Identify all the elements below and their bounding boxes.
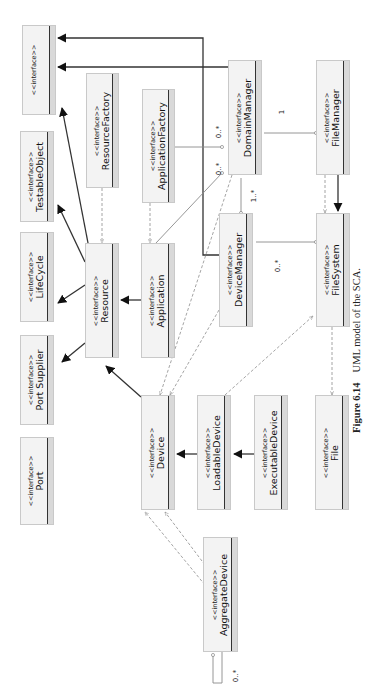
interface-box-port-supplier: <<interface>>Port Supplier [20,335,54,425]
box-label: <<interface>>TestableObject [28,142,46,212]
interface-name: DeviceManager [234,233,245,307]
box-compartment-strip [112,74,118,187]
interface-name: AggregateDevice [219,553,230,635]
interface-box-lifecycle: <<interface>>LifeCycle [20,232,54,322]
box-compartment-strip [224,396,230,509]
interface-box-testable-object: <<interface>>TestableObject [20,131,54,222]
association-aggregate-device-to-aggregate-device [213,652,222,683]
generalization-resource-to-port-supplier [62,343,85,362]
figure-number: Figure 6.14 [351,382,362,433]
interface-name: LoadableDevice [212,415,223,491]
box-compartment-strip [168,90,174,202]
interface-name: ApplicationFactory [157,102,168,190]
interface-name: Port Supplier [35,350,46,411]
interface-box-file: <<interface>>File [315,395,349,510]
box-compartment-strip [168,396,174,509]
box-compartment-strip [231,538,237,651]
box-label: <<interface>>FileSystem [324,244,342,295]
interface-name: ResourceFactory [101,91,112,169]
dependency-loadable-device-to-file-system [225,316,313,395]
multiplicity-dm-fm-mult: 1 [278,110,286,114]
box-compartment-strip [47,438,53,524]
box-label: <<interface>>FileManager [324,89,342,147]
box-label: <<interface>>ResourceFactory [93,91,111,169]
box-compartment-strip [49,26,55,114]
interface-box-aggregate-device: <<interface>>AggregateDevice [203,537,238,652]
box-compartment-strip [47,233,53,321]
box-label: <<interface>>Port Supplier [28,350,46,411]
dependency-lines [102,175,332,585]
interface-name: ExecutableDevice [269,410,280,495]
box-label: <<interface>>Application [149,274,167,327]
interface-box-domain-manager: <<interface>>DomainManager [228,60,262,175]
interface-box-device: <<interface>>Device [141,395,175,510]
interface-box-application: <<interface>>Application [141,243,175,358]
interface-box-executable-device: <<interface>>ExecutableDevice [254,395,288,510]
stereotype-label: <<interface>> [31,45,38,96]
interface-name: Device [156,427,167,478]
box-label: <<interface>>Device [149,427,167,478]
box-compartment-strip [255,61,261,174]
generalization-device-to-resource [106,366,141,397]
multiplicity-dm-app-mult: 0..* [215,163,223,175]
dependency-aggregate-device-to-device [165,512,205,565]
interface-box-resource-factory: <<interface>>ResourceFactory [86,73,119,188]
box-compartment-strip [343,61,349,174]
interface-box-file-manager: <<interface>>FileManager [316,60,350,175]
interface-box-port: <<interface>>Port [20,437,54,525]
box-label: <<interface>> [31,45,38,96]
box-label: <<interface>>Port [28,456,46,507]
interface-name: TestableObject [35,142,46,212]
box-compartment-strip [343,214,349,326]
box-compartment-strip [246,214,252,326]
box-compartment-strip [112,244,118,357]
box-compartment-strip [47,336,53,424]
box-label: <<interface>>ExecutableDevice [262,410,280,495]
dependency-aggregate-device-to-device [145,512,205,585]
interface-box-file-system: <<interface>>FileSystem [316,213,350,327]
box-label: <<interface>>DomainManager [236,78,254,157]
interface-name: LifeCycle [35,252,46,303]
multiplicity-devmgr-fs-mult: 0..* [274,260,282,272]
box-label: <<interface>>DeviceManager [227,233,245,307]
interface-name: FileManager [331,89,342,147]
box-compartment-strip [47,132,53,221]
box-label: <<interface>>LoadableDevice [205,415,223,491]
interface-name: Port [35,456,46,507]
interface-name: Application [156,274,167,327]
box-compartment-strip [168,244,174,357]
box-label: <<interface>>AggregateDevice [211,553,229,635]
interface-name: File [330,427,341,478]
interface-box-application-factory: <<interface>>ApplicationFactory [142,89,175,203]
interface-box-loadable-device: <<interface>>LoadableDevice [197,395,231,510]
box-label: <<interface>>Resource [93,275,111,326]
generalization-resource-to-testable-object [58,205,85,262]
figure-caption: Figure 6.14UML model of the SCA. [351,251,362,451]
box-compartment-strip [281,396,287,509]
box-label: <<interface>>File [323,427,341,478]
interface-box-device-manager: <<interface>>DeviceManager [219,213,253,327]
generalization-device-manager-to-top-interface [58,38,219,255]
dependency-device-manager-to-device [170,310,219,395]
multiplicity-dm-appfactory-mult: 0..* [215,126,223,138]
interface-box-resource: <<interface>>Resource [85,243,119,358]
multiplicity-aggregate-self-mult: 0..* [232,670,240,682]
interface-box-top-interface: <<interface>> [22,25,56,115]
box-label: <<interface>>LifeCycle [28,252,46,303]
box-compartment-strip [342,396,348,509]
figure-caption-text: UML model of the SCA. [351,268,362,372]
multiplicity-dm-devmgr-mult: 1..* [250,190,258,202]
interface-name: DomainManager [243,78,254,157]
interface-name: Resource [100,275,111,326]
interface-name: FileSystem [331,244,342,295]
generalization-resource-to-lifecycle [58,285,85,303]
box-label: <<interface>>ApplicationFactory [149,102,167,190]
